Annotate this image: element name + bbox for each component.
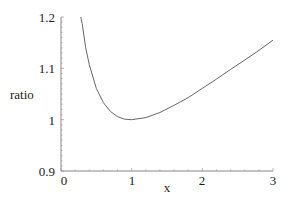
y-tick-label: 1	[49, 113, 56, 128]
ratio-curve	[81, 17, 273, 120]
x-tick-label: 2	[199, 173, 206, 188]
x-tick-label: 3	[270, 173, 277, 188]
x-tick-label: 0	[61, 173, 68, 188]
x-axis: 0 1 2 3 x	[61, 168, 277, 195]
y-tick-label: 0.9	[39, 164, 55, 179]
y-tick-label: 1.2	[39, 10, 55, 25]
x-tick-label: 1	[129, 173, 136, 188]
y-axis-label: ratio	[10, 87, 34, 102]
y-axis: 1.2 1.1 1 0.9 ratio	[10, 10, 64, 179]
x-axis-label: x	[164, 180, 171, 195]
chart: 1.2 1.1 1 0.9 ratio 0 1 2 3 x	[0, 0, 291, 199]
y-tick-label: 1.1	[39, 61, 55, 76]
